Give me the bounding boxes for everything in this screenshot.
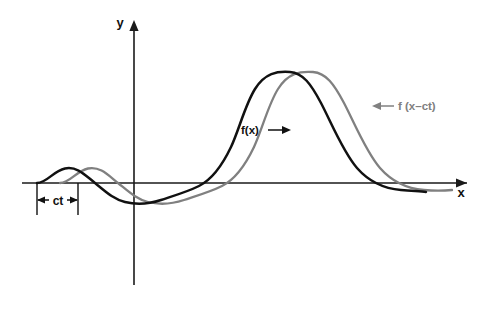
- primary-curve-annotation: f(x): [241, 124, 291, 136]
- shifted-curve-label: f (x–ct): [398, 100, 436, 112]
- wave-translation-figure: y x ct f(x) f (x–ct): [0, 0, 497, 309]
- y-axis: [129, 20, 138, 285]
- x-axis-label: x: [457, 185, 465, 200]
- plot-canvas: y x ct f(x) f (x–ct): [0, 0, 497, 309]
- primary-curve-leader-arrowhead: [282, 126, 291, 134]
- primary-curve-label: f(x): [241, 124, 259, 136]
- ct-right-arrowhead: [70, 197, 78, 204]
- y-axis-label: y: [116, 15, 124, 30]
- y-axis-arrowhead: [129, 20, 138, 31]
- ct-left-arrowhead: [37, 197, 45, 204]
- shifted-curve-leader-arrowhead: [372, 102, 381, 110]
- ct-measure-bracket: ct: [37, 183, 78, 215]
- shifted-curve: [60, 72, 452, 204]
- primary-curve: [37, 72, 426, 204]
- ct-label: ct: [53, 194, 64, 208]
- shifted-curve-annotation: f (x–ct): [372, 100, 436, 112]
